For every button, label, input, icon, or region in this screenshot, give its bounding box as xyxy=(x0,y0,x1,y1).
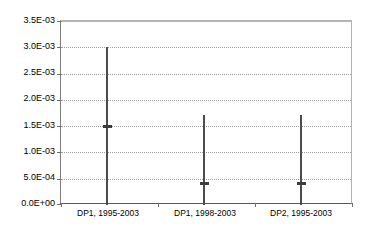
gridline-5.0e-04 xyxy=(61,179,351,180)
median-marker-dp2-1995-2003 xyxy=(297,182,306,185)
y-axis-tick-label: 2.0E-03 xyxy=(0,94,55,103)
y-axis-tick-label: 3.0E-03 xyxy=(0,42,55,51)
gridline-2.0e-03 xyxy=(61,100,351,101)
y-axis-tick-mark xyxy=(57,126,61,127)
x-axis-label-dp1-1998-2003: DP1, 1998-2003 xyxy=(174,208,236,218)
gridline-2.5e-03 xyxy=(61,74,351,75)
range-bar-dp1-1998-2003 xyxy=(203,115,205,205)
gridline-3.0e-03 xyxy=(61,47,351,48)
y-axis-tick-label: 1.5E-03 xyxy=(0,121,55,130)
y-axis-tick-mark xyxy=(57,21,61,22)
y-axis-tick-label: 5.0E-04 xyxy=(0,173,55,182)
y-axis-tick-label: 0.0E+00 xyxy=(0,199,55,208)
y-axis-tick-label: 3.5E-03 xyxy=(0,16,55,25)
gridline-1.0e-03 xyxy=(61,152,351,153)
x-axis-separator xyxy=(352,203,353,207)
x-axis-separator xyxy=(158,203,159,207)
median-marker-dp1-1995-2003 xyxy=(103,125,112,128)
y-axis-tick-mark xyxy=(57,100,61,101)
y-axis-tick-mark xyxy=(57,179,61,180)
chart-container: 3.5E-03 3.0E-03 2.5E-03 2.0E-03 1.5E-03 … xyxy=(0,0,368,230)
plot-area xyxy=(60,20,352,204)
x-axis-separator xyxy=(61,203,62,207)
y-axis-tick-label: 2.5E-03 xyxy=(0,68,55,77)
x-axis-label-dp2-1995-2003: DP2, 1995-2003 xyxy=(270,208,332,218)
y-axis-tick-label: 1.0E-03 xyxy=(0,147,55,156)
y-axis-tick-mark xyxy=(57,74,61,75)
range-bar-dp2-1995-2003 xyxy=(300,115,302,205)
y-axis-tick-mark xyxy=(57,152,61,153)
x-axis-label-dp1-1995-2003: DP1, 1995-2003 xyxy=(77,208,139,218)
median-marker-dp1-1998-2003 xyxy=(200,182,209,185)
x-axis-separator xyxy=(255,203,256,207)
gridline-3.5e-03 xyxy=(61,21,351,22)
y-axis-tick-mark xyxy=(57,47,61,48)
